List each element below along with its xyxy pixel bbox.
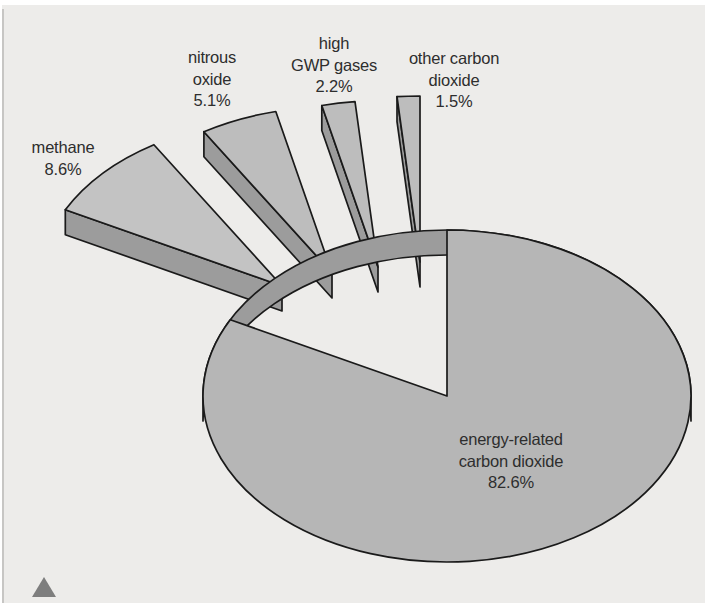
label-line: carbon dioxide <box>459 451 564 473</box>
corner-triangle-icon <box>32 577 56 597</box>
label-line: 5.1% <box>188 90 236 112</box>
label-line: high <box>291 33 377 55</box>
label-line: energy-related <box>459 429 564 451</box>
label-line: oxide <box>188 69 236 91</box>
label-line: GWP gases <box>291 55 377 77</box>
label-nitrous-oxide: nitrous oxide 5.1% <box>188 47 236 112</box>
label-line: 8.6% <box>32 159 95 181</box>
label-line: 1.5% <box>409 91 499 113</box>
label-energy-related-carbon-dioxide: energy-related carbon dioxide 82.6% <box>459 429 564 494</box>
label-line: 2.2% <box>291 76 377 98</box>
label-methane: methane 8.6% <box>32 137 95 180</box>
label-line: methane <box>32 137 95 159</box>
label-line: nitrous <box>188 47 236 69</box>
chart-area: methane 8.6% nitrous oxide 5.1% high GWP… <box>0 0 705 603</box>
label-line: other carbon <box>409 48 499 70</box>
label-line: 82.6% <box>459 472 564 494</box>
label-line: dioxide <box>409 70 499 92</box>
label-other-carbon-dioxide: other carbon dioxide 1.5% <box>409 48 499 113</box>
label-high-gwp-gases: high GWP gases 2.2% <box>291 33 377 98</box>
